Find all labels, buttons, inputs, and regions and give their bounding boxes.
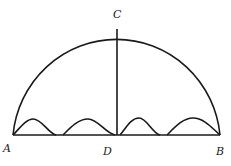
arch-3 — [120, 118, 160, 135]
label-d: D — [102, 145, 112, 158]
arch-2 — [63, 119, 115, 135]
label-c: C — [113, 8, 122, 21]
arch-4 — [167, 118, 220, 135]
geometry-diagram: C A D B — [0, 0, 231, 166]
arch-1 — [13, 119, 56, 135]
label-b: B — [215, 145, 224, 158]
label-a: A — [2, 142, 11, 155]
